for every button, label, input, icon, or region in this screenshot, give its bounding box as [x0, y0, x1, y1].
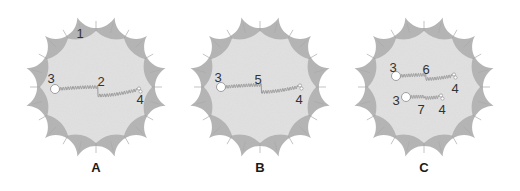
start-bead-icon: [402, 93, 411, 102]
end-bead-icon: [300, 87, 303, 90]
chain-label: 7: [417, 102, 424, 117]
start-label: 3: [392, 93, 399, 108]
start-label: 3: [47, 71, 54, 86]
chain-label: 6: [422, 62, 429, 77]
rim-label: 1: [76, 26, 83, 41]
end-label: 4: [451, 81, 458, 96]
figure-canvas: 1324A 354B 364374C: [0, 0, 520, 191]
panel-a: 1324A: [26, 17, 165, 175]
end-bead-icon: [298, 84, 301, 87]
end-bead-icon: [454, 76, 457, 79]
start-label: 3: [214, 70, 221, 85]
end-bead-icon: [137, 87, 140, 90]
panel-label: C: [419, 160, 429, 175]
end-bead-icon: [439, 94, 442, 97]
end-label: 4: [295, 92, 302, 107]
panel-c: 364374C: [354, 17, 493, 175]
chain-label: 5: [254, 72, 261, 87]
end-label: 4: [136, 92, 143, 107]
end-bead-icon: [452, 73, 455, 76]
end-bead-icon: [441, 97, 444, 100]
end-label: 4: [438, 102, 445, 117]
panel-b: 354B: [190, 17, 329, 175]
chain-label: 2: [97, 74, 104, 89]
panel-label: A: [91, 160, 101, 175]
start-label: 3: [389, 60, 396, 75]
panel-label: B: [255, 160, 264, 175]
